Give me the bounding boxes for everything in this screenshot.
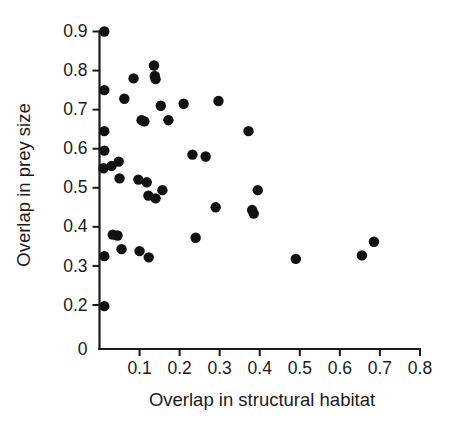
- x-tick-label: 0.5: [288, 358, 312, 378]
- data-point: [149, 60, 159, 70]
- data-point: [150, 193, 160, 203]
- data-point: [213, 96, 223, 106]
- x-axis-title: Overlap in structural habitat: [149, 389, 375, 410]
- data-point: [144, 252, 154, 262]
- data-point: [114, 173, 124, 183]
- data-point: [187, 149, 197, 159]
- x-tick-labels: 0.10.20.30.40.50.60.70.8: [127, 358, 432, 378]
- data-point: [99, 251, 109, 261]
- x-tick-label: 0.3: [208, 358, 232, 378]
- data-point: [150, 74, 160, 84]
- data-point: [134, 246, 144, 256]
- data-point: [156, 101, 166, 111]
- y-tick-label: 0.4: [63, 216, 88, 236]
- data-point: [139, 116, 149, 126]
- data-point: [128, 73, 138, 83]
- plot-canvas: 0.20.30.40.50.60.70.80.90 0.10.20.30.40.…: [0, 0, 459, 423]
- data-point: [99, 26, 109, 36]
- x-tick-label: 0.6: [328, 358, 352, 378]
- y-tick-label: 0.7: [63, 99, 87, 119]
- data-point: [357, 250, 367, 260]
- data-point: [291, 254, 301, 264]
- data-point: [253, 185, 263, 195]
- x-tick-label: 0.2: [167, 358, 191, 378]
- scatter-plot-figure: 0.20.30.40.50.60.70.80.90 0.10.20.30.40.…: [0, 0, 459, 423]
- x-axis: [100, 349, 421, 356]
- x-tick-label: 0.7: [368, 358, 392, 378]
- y-tick-label: 0.6: [63, 138, 87, 158]
- x-tick-label: 0.8: [408, 358, 432, 378]
- x-tick-label: 0.1: [127, 358, 151, 378]
- y-tick-label: 0.8: [63, 60, 87, 80]
- y-axis-title: Overlap in prey size: [13, 103, 34, 266]
- data-point: [99, 126, 109, 136]
- data-point: [249, 208, 259, 218]
- y-tick-label: 0.2: [63, 295, 87, 315]
- y-axis: [93, 32, 100, 350]
- y-origin-label: 0: [78, 339, 88, 359]
- y-tick-label: 0.3: [63, 256, 87, 276]
- data-point: [200, 151, 210, 161]
- data-points: [98, 26, 379, 311]
- data-point: [119, 94, 129, 104]
- data-point: [114, 156, 124, 166]
- data-point: [116, 244, 126, 254]
- y-tick-label: 0.9: [63, 21, 87, 41]
- data-point: [369, 237, 379, 247]
- y-tick-labels: 0.20.30.40.50.60.70.80.90: [63, 21, 88, 359]
- data-point: [157, 185, 167, 195]
- data-point: [190, 233, 200, 243]
- data-point: [210, 202, 220, 212]
- data-point: [142, 177, 152, 187]
- x-tick-label: 0.4: [248, 358, 273, 378]
- y-tick-label: 0.5: [63, 177, 87, 197]
- data-point: [163, 115, 173, 125]
- data-point: [99, 145, 109, 155]
- data-point: [178, 99, 188, 109]
- data-point: [99, 85, 109, 95]
- data-point: [112, 230, 122, 240]
- data-point: [243, 126, 253, 136]
- data-point: [99, 301, 109, 311]
